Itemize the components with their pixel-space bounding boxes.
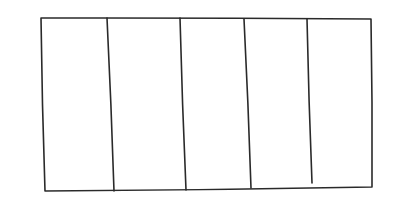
column-dividers [107,18,312,191]
sketch-canvas [0,0,399,199]
outer-rectangle [41,18,372,191]
column-divider-3 [244,19,251,188]
column-divider-2 [180,18,186,190]
column-divider-4 [307,19,312,183]
column-divider-1 [107,18,114,191]
